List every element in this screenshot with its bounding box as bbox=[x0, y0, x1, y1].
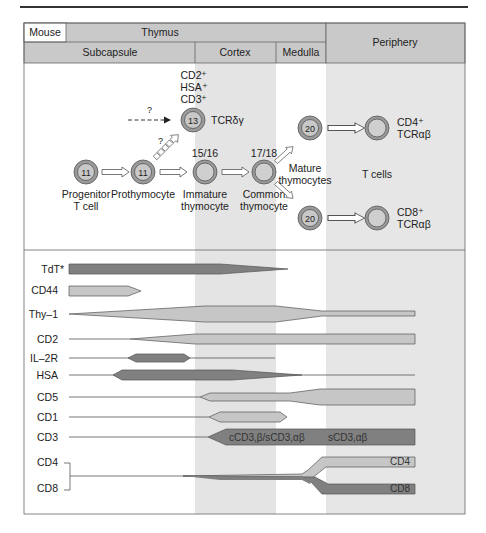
svg-text:TCRδγ: TCRδγ bbox=[211, 114, 244, 126]
cd4-bar-label: CD4 bbox=[390, 456, 410, 467]
cell-prothymocyte: 11 Prothymocyte bbox=[111, 160, 175, 200]
mature-label: Mature bbox=[289, 162, 322, 174]
svg-text:T cell: T cell bbox=[74, 200, 99, 212]
svg-text:TCRαβ: TCRαβ bbox=[397, 218, 431, 230]
svg-text:11: 11 bbox=[81, 168, 90, 178]
header: Mouse Thymus Subcapsule Cortex Medulla P… bbox=[24, 23, 465, 63]
svg-text:17/18: 17/18 bbox=[251, 147, 277, 159]
svg-text:HSA⁺: HSA⁺ bbox=[180, 81, 208, 93]
svg-text:CD3⁺: CD3⁺ bbox=[180, 93, 207, 105]
svg-text:TCRαβ: TCRαβ bbox=[397, 128, 431, 140]
region-medulla: Medulla bbox=[283, 46, 320, 58]
organ-label: Thymus bbox=[141, 26, 178, 38]
cd3-label-medulla: sCD3,αβ bbox=[328, 432, 368, 443]
cd8-bar-label: CD8 bbox=[390, 483, 410, 494]
bar-cd1 bbox=[209, 412, 287, 422]
region-periphery: Periphery bbox=[373, 36, 419, 48]
svg-text:Progenitor: Progenitor bbox=[62, 188, 111, 200]
svg-text:HSA: HSA bbox=[36, 369, 58, 381]
marker-labels: TdT* CD44 Thy–1 CD2 IL–2R HSA CD5 CD1 CD… bbox=[29, 263, 64, 494]
svg-text:CD4: CD4 bbox=[37, 456, 58, 468]
cell-mature-cd4: 20 bbox=[298, 116, 322, 140]
svg-text:thymocyte: thymocyte bbox=[240, 200, 288, 212]
arrow-icon bbox=[160, 167, 187, 177]
cell-progenitor: 11 Progenitor T cell bbox=[62, 160, 111, 212]
arrow-icon bbox=[102, 167, 129, 177]
svg-text:15/16: 15/16 bbox=[192, 147, 218, 159]
svg-text:CD2: CD2 bbox=[37, 333, 58, 345]
svg-text:thymocyte: thymocyte bbox=[181, 200, 229, 212]
svg-text:Prothymocyte: Prothymocyte bbox=[111, 188, 175, 200]
svg-text:CD4⁺: CD4⁺ bbox=[397, 116, 424, 128]
bar-il2r bbox=[128, 354, 190, 362]
svg-text:CD8⁺: CD8⁺ bbox=[397, 206, 424, 218]
svg-text:11: 11 bbox=[138, 168, 147, 178]
cd4-cd8-bracket bbox=[64, 463, 183, 490]
svg-text:IL–2R: IL–2R bbox=[30, 352, 58, 364]
svg-text:20: 20 bbox=[305, 214, 315, 224]
region-cortex: Cortex bbox=[220, 46, 252, 58]
bar-cd2 bbox=[130, 334, 415, 344]
svg-text:CD3: CD3 bbox=[37, 431, 58, 443]
svg-text:TdT*: TdT* bbox=[41, 263, 64, 275]
question-mark: ? bbox=[147, 105, 152, 115]
species-label: Mouse bbox=[29, 26, 61, 38]
region-subcapsule: Subcapsule bbox=[83, 46, 138, 58]
svg-text:Thy–1: Thy–1 bbox=[29, 308, 58, 320]
cell-mature-cd8: 20 bbox=[298, 206, 322, 230]
svg-text:CD8: CD8 bbox=[37, 482, 58, 494]
svg-text:CD44: CD44 bbox=[31, 284, 58, 296]
svg-text:CD5: CD5 bbox=[37, 391, 58, 403]
bar-cd44 bbox=[69, 286, 141, 296]
svg-text:CD2⁺: CD2⁺ bbox=[180, 69, 207, 81]
tcell-cd4: CD4⁺ TCRαβ bbox=[365, 116, 431, 140]
svg-text:CD1: CD1 bbox=[37, 411, 58, 423]
svg-text:Common: Common bbox=[243, 188, 286, 200]
cortex-column bbox=[195, 63, 276, 514]
svg-text:13: 13 bbox=[188, 116, 198, 126]
thymocyte-development-diagram: Mouse Thymus Subcapsule Cortex Medulla P… bbox=[0, 0, 486, 533]
question-mark: ? bbox=[158, 136, 163, 146]
svg-text:20: 20 bbox=[305, 124, 315, 134]
dotted-arrow-icon bbox=[151, 131, 181, 161]
mature-label: thymocytes bbox=[278, 174, 331, 186]
tcells-label: T cells bbox=[362, 168, 392, 180]
cd3-label-cortex: cCD3,β/sCD3,αβ bbox=[229, 432, 305, 443]
tcell-cd8: CD8⁺ TCRαβ bbox=[365, 206, 431, 230]
svg-text:Immature: Immature bbox=[183, 188, 228, 200]
